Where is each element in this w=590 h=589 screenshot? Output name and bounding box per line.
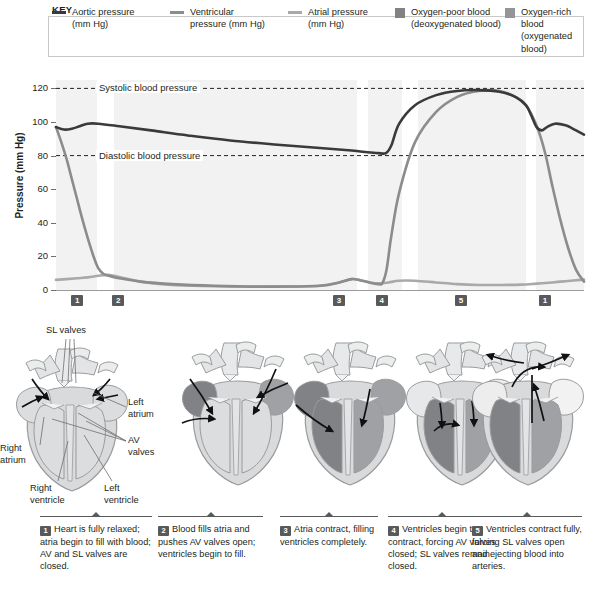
y-tick-mark <box>51 256 56 257</box>
caption-number: 3 <box>280 526 291 536</box>
y-tick-label: 0 <box>20 284 48 295</box>
heart-stage-3 <box>292 339 410 524</box>
y-tick-mark <box>51 156 56 157</box>
caption-pointer <box>472 512 582 519</box>
key-item-ventricular-pressure: Ventricular pressure (mm Hg) <box>170 6 265 30</box>
heart-stage-5 <box>470 339 588 524</box>
caption-text: Ventricles contract fully, forcing SL va… <box>472 524 582 571</box>
caption-text: Blood fills atria and pushes AV valves o… <box>158 524 255 559</box>
heart-label-sl-valves: SL valves <box>46 325 106 337</box>
phase-marker-3: 3 <box>333 295 345 306</box>
caption-rule <box>472 516 582 517</box>
y-tick-mark <box>51 88 56 89</box>
y-tick-mark <box>51 290 56 291</box>
heart-illustration <box>14 345 132 495</box>
y-tick-mark <box>51 223 56 224</box>
caption-number: 5 <box>472 526 483 536</box>
y-tick-label: 100 <box>20 116 48 127</box>
caption-triangle-icon <box>207 512 215 516</box>
key-item-label: Ventricular pressure (mm Hg) <box>190 6 265 30</box>
heart-label-left-atrium: Left atrium <box>128 397 176 420</box>
heart-illustration <box>180 339 298 489</box>
y-axis-ticks: 020406080100120 <box>20 70 48 290</box>
caption-body: 3Atria contract, filling ventricles comp… <box>280 523 378 548</box>
caption-rule <box>280 516 378 517</box>
key-item-label: Aortic pressure (mm Hg) <box>72 6 135 30</box>
heart-stage-2 <box>180 339 298 524</box>
phase-marker-1: 1 <box>539 295 551 306</box>
key-item-label: Atrial pressure (mm Hg) <box>308 6 368 30</box>
caption-triangle-icon <box>325 512 333 516</box>
caption-body: 1Heart is fully relaxed; atria begin to … <box>40 523 152 572</box>
key-line-icon <box>52 11 66 14</box>
caption-pointer <box>40 512 152 519</box>
key-swatch-icon <box>505 8 515 18</box>
key-item-label: Oxygen-poor blood (deoxygenated blood) <box>411 6 501 30</box>
figure-cardiac-cycle: KEY Aortic pressure (mm Hg)Ventricular p… <box>0 0 590 589</box>
heart-label-right-ventricle: Right ventricle <box>30 483 88 506</box>
heart-label-left-ventricle: Left ventricle <box>104 483 156 506</box>
caption-1: 1Heart is fully relaxed; atria begin to … <box>40 512 152 572</box>
pressure-chart: Pressure (mm Hg) 020406080100120 123451 … <box>0 70 590 320</box>
key-item-oxygen-rich-blood: Oxygen-rich blood (oxygenated blood) <box>505 6 590 55</box>
caption-number: 2 <box>158 526 169 536</box>
key-item-oxygen-poor-blood: Oxygen-poor blood (deoxygenated blood) <box>395 6 501 30</box>
key-line-icon <box>170 11 184 14</box>
caption-text: Heart is fully relaxed; atria begin to f… <box>40 524 151 571</box>
heart-illustration <box>470 339 588 489</box>
y-tick-mark <box>51 189 56 190</box>
pressure-reference-label: Diastolic blood pressure <box>96 150 203 161</box>
caption-5: 5Ventricles contract fully, forcing SL v… <box>472 512 582 572</box>
heart-label-right-atrium: Right atrium <box>0 443 48 466</box>
caption-row: 1Heart is fully relaxed; atria begin to … <box>0 512 590 589</box>
caption-rule <box>158 516 263 517</box>
plot-area <box>56 80 584 290</box>
phase-marker-4: 4 <box>376 295 388 306</box>
y-tick-label: 120 <box>20 82 48 93</box>
pressure-reference-label: Systolic blood pressure <box>96 82 200 93</box>
caption-pointer <box>280 512 378 519</box>
caption-triangle-icon <box>92 512 100 516</box>
phase-marker-2: 2 <box>112 295 124 306</box>
heart-diagram-row: SL valvesLeft atriumAV valvesRight atriu… <box>0 325 590 515</box>
heart-label-av-valves: AV valves <box>128 435 172 458</box>
y-tick-label: 80 <box>20 150 48 161</box>
series-curve <box>56 90 584 286</box>
caption-rule <box>40 516 152 517</box>
x-axis-line <box>56 290 584 291</box>
y-tick-label: 60 <box>20 183 48 194</box>
caption-3: 3Atria contract, filling ventricles comp… <box>280 512 378 548</box>
caption-number: 1 <box>40 526 51 536</box>
caption-2: 2Blood fills atria and pushes AV valves … <box>158 512 263 560</box>
key-line-icon <box>288 11 302 14</box>
key-item-atrial-pressure: Atrial pressure (mm Hg) <box>288 6 368 30</box>
key-item-label: Oxygen-rich blood (oxygenated blood) <box>521 6 590 55</box>
y-tick-label: 20 <box>20 250 48 261</box>
caption-body: 5Ventricles contract fully, forcing SL v… <box>472 523 582 572</box>
caption-triangle-icon <box>523 512 531 516</box>
y-tick-label: 40 <box>20 217 48 228</box>
y-tick-mark <box>51 122 56 123</box>
caption-triangle-icon <box>438 512 446 516</box>
caption-number: 4 <box>388 526 399 536</box>
caption-body: 2Blood fills atria and pushes AV valves … <box>158 523 263 560</box>
heart-illustration <box>292 339 410 489</box>
phase-marker-5: 5 <box>455 295 467 306</box>
key-swatch-icon <box>395 8 405 18</box>
phase-marker-1: 1 <box>71 295 83 306</box>
series-curve <box>56 90 584 154</box>
caption-text: Atria contract, filling ventricles compl… <box>280 524 374 547</box>
pressure-curves <box>56 80 584 290</box>
key-item-aortic-pressure: Aortic pressure (mm Hg) <box>52 6 135 30</box>
caption-pointer <box>158 512 263 519</box>
